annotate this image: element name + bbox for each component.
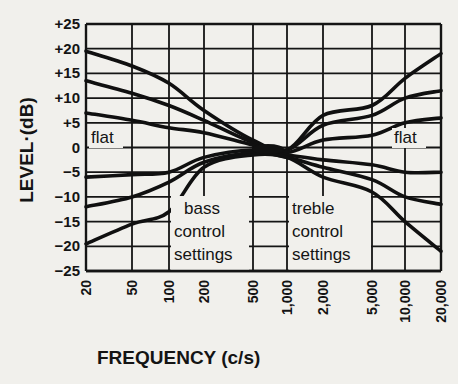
y-tick-label: −5 (63, 163, 80, 180)
x-tick-label: 2,000 (315, 280, 331, 315)
x-tick-label: 20 (78, 280, 94, 296)
x-tick-label: 200 (196, 280, 212, 304)
treble-label-line: treble (292, 199, 335, 218)
x-axis-title: FREQUENCY (c/s) (97, 347, 260, 368)
x-tick-label: 5,000 (364, 280, 380, 315)
treble-label-line: settings (292, 245, 351, 264)
y-tick-label: −15 (55, 213, 80, 230)
x-tick-label: 100 (161, 280, 177, 304)
x-tick-label: 20,000 (433, 280, 449, 323)
chart-canvas: flatflatbasscontrolsettingstreblecontrol… (0, 0, 458, 384)
y-tick-label: +20 (55, 40, 80, 57)
bass-label-line: control (174, 222, 225, 241)
bass-label-line: settings (174, 245, 233, 264)
flat-label-left: flat (91, 128, 114, 147)
response-curve (86, 152, 441, 206)
crossover-knot (252, 144, 284, 154)
x-tick-label: 10,000 (397, 280, 413, 323)
treble-label-line: control (292, 222, 343, 241)
y-axis-title: LEVEL·(dB) (16, 97, 37, 203)
y-tick-label: 0 (72, 139, 80, 156)
flat-label-right: flat (394, 128, 417, 147)
response-curve (86, 51, 441, 151)
y-tick-label: −25 (55, 262, 80, 279)
tone-control-chart: flatflatbasscontrolsettingstreblecontrol… (0, 0, 458, 384)
y-tick-label: −10 (55, 188, 80, 205)
y-tick-label: +25 (55, 15, 80, 32)
y-tick-label: +10 (55, 89, 80, 106)
y-tick-label: +15 (55, 64, 80, 81)
y-tick-label: −20 (55, 237, 80, 254)
y-tick-label: +5 (63, 114, 80, 131)
response-curve (86, 81, 441, 151)
x-tick-label: 1,000 (279, 280, 295, 315)
bass-label-line: bass (184, 199, 220, 218)
x-axis-ticks: 20501002005001,0002,0005,00010,00020,000 (78, 280, 449, 323)
x-tick-label: 500 (245, 280, 261, 304)
x-tick-label: 50 (124, 280, 140, 296)
y-axis-ticks: +25+20+15+10+50−5−10−15−20−25 (55, 15, 80, 279)
